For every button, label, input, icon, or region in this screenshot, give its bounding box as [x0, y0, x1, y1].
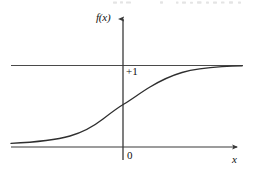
asymptote-value-label: +1 — [126, 66, 138, 77]
sigmoid-curve — [11, 66, 242, 143]
origin-label: 0 — [127, 150, 133, 161]
plot-canvas — [0, 0, 254, 174]
figure-container: f(x) +1 0 x — [0, 0, 254, 174]
x-axis-label: x — [232, 154, 237, 165]
y-axis-label: f(x) — [96, 12, 110, 23]
